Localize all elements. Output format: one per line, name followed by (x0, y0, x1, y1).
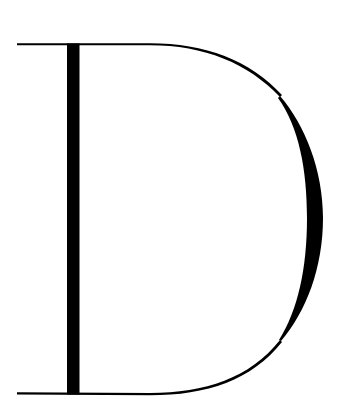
letter-d-icon (0, 0, 346, 416)
